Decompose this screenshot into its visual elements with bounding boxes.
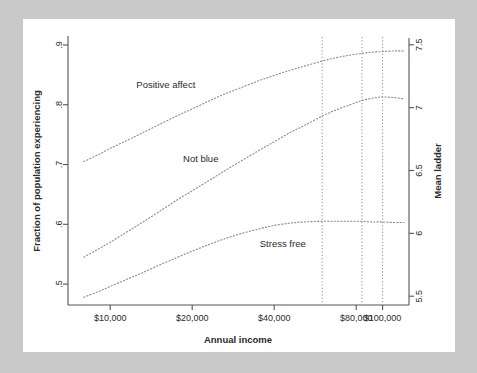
x-tick-label: $40,000 bbox=[258, 313, 291, 323]
x-tick-label: $20,000 bbox=[176, 313, 209, 323]
tick-labels: .5.6.7.8.95.566.577.5$10,000$20,000$40,0… bbox=[54, 39, 424, 323]
x-axis-title: Annual income bbox=[204, 334, 272, 345]
y-tick-label: .7 bbox=[54, 161, 64, 169]
chart-panel: .5.6.7.8.95.566.577.5$10,000$20,000$40,0… bbox=[23, 19, 455, 352]
vertical-reference-lines bbox=[322, 37, 382, 304]
tick-marks bbox=[63, 45, 414, 310]
y2-tick-label: 7.5 bbox=[414, 39, 424, 52]
y2-tick-label: 6.5 bbox=[414, 164, 424, 177]
y-tick-label: .9 bbox=[54, 41, 64, 49]
y-tick-label: .8 bbox=[54, 101, 64, 109]
series-labels: Positive affectNot blueStress free bbox=[136, 79, 305, 249]
series-label-stress-free: Stress free bbox=[260, 238, 306, 249]
y2-tick-label: 5.5 bbox=[414, 290, 424, 303]
y-tick-label: .5 bbox=[54, 280, 64, 288]
series-label-positive-affect: Positive affect bbox=[136, 79, 195, 90]
series-label-not-blue: Not blue bbox=[183, 153, 218, 164]
x-tick-label: $100,000 bbox=[364, 313, 402, 323]
x-tick-label: $10,000 bbox=[94, 313, 127, 323]
series-curve-positive-affect bbox=[84, 51, 404, 162]
y2-tick-label: 7 bbox=[414, 105, 424, 110]
series-curves bbox=[84, 51, 404, 297]
series-curve-stress-free bbox=[84, 221, 404, 297]
chart-svg: .5.6.7.8.95.566.577.5$10,000$20,000$40,0… bbox=[23, 19, 455, 352]
y2-axis-title: Mean ladder bbox=[432, 143, 443, 199]
axes bbox=[68, 36, 409, 305]
y-axis-title: Fraction of population experiencing bbox=[31, 90, 42, 252]
figure-root: .5.6.7.8.95.566.577.5$10,000$20,000$40,0… bbox=[0, 0, 477, 373]
y-tick-label: .6 bbox=[54, 221, 64, 229]
y2-tick-label: 6 bbox=[414, 231, 424, 236]
